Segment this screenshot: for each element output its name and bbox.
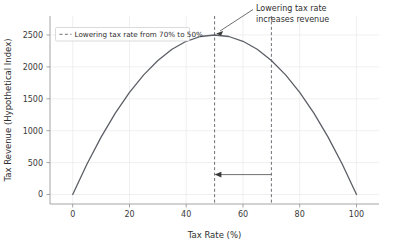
x-tick-label-0: 0 [70, 210, 75, 219]
x-tick-label-60: 60 [238, 210, 248, 219]
y-axis-tick-labels: 0 500 1000 1500 2000 2500 [23, 31, 43, 200]
x-tick-label-100: 100 [349, 210, 364, 219]
chart-figure: 0 500 1000 1500 2000 2500 0 20 40 60 80 … [0, 0, 396, 250]
laffer-curve-chart: 0 500 1000 1500 2000 2500 0 20 40 60 80 … [0, 0, 396, 250]
x-tick-label-80: 80 [295, 210, 305, 219]
peak-annotation: Lowering tax rate increases revenue [216, 4, 329, 36]
y-axis-title: Tax Revenue (Hypothetical Index) [3, 38, 13, 182]
x-axis-ticks [73, 204, 357, 208]
legend-label-rate-change: Lowering tax rate from 70% to 50% [75, 30, 203, 39]
x-tick-label-40: 40 [181, 210, 191, 219]
y-tick-label-1000: 1000 [23, 127, 43, 136]
x-axis-title: Tax Rate (%) [187, 230, 242, 240]
chart-legend[interactable]: Lowering tax rate from 70% to 50% [56, 28, 203, 42]
x-tick-label-20: 20 [124, 210, 134, 219]
y-tick-label-2500: 2500 [23, 31, 43, 40]
y-tick-label-500: 500 [28, 159, 43, 168]
peak-annotation-line-1: Lowering tax rate [256, 4, 327, 13]
y-tick-label-0: 0 [38, 190, 43, 199]
rate-change-arrow-head [215, 172, 222, 178]
x-axis-tick-labels: 0 20 40 60 80 100 [70, 210, 364, 219]
y-tick-label-1500: 1500 [23, 95, 43, 104]
peak-annotation-leader [220, 10, 253, 32]
y-tick-label-2000: 2000 [23, 63, 43, 72]
peak-annotation-line-2: increases revenue [256, 15, 329, 24]
y-axis-ticks [47, 35, 51, 195]
